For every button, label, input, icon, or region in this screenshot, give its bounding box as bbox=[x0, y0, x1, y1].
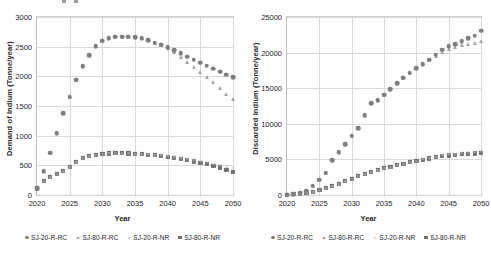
data-point bbox=[61, 111, 66, 116]
data-point bbox=[311, 183, 316, 188]
data-point bbox=[93, 152, 98, 157]
data-point bbox=[349, 176, 354, 181]
x-axis-tick-label: 2045 bbox=[440, 199, 457, 208]
data-point bbox=[408, 70, 413, 75]
gridline-vertical bbox=[168, 17, 169, 195]
data-point bbox=[466, 42, 470, 46]
legend-item[interactable]: SJ-80-R-NR bbox=[178, 234, 220, 241]
data-point bbox=[74, 159, 79, 164]
data-point bbox=[54, 131, 59, 136]
data-point bbox=[94, 44, 99, 49]
x-axis-tick-label: 2035 bbox=[376, 199, 393, 208]
legend-item[interactable]: SJ-80-R-RC bbox=[322, 234, 364, 241]
gridline-vertical bbox=[481, 17, 482, 195]
x-axis-tick-label: 2040 bbox=[408, 199, 425, 208]
legend-label: SJ-20-R-NR bbox=[379, 234, 415, 241]
legend-label: SJ-20-R-RC bbox=[277, 234, 313, 241]
legend-label: SJ-80-R-RC bbox=[328, 234, 364, 241]
y-axis-tick-label: 500 bbox=[19, 161, 32, 170]
legend-item[interactable]: SJ-80-R-RC bbox=[76, 234, 118, 241]
y-axis-tick-label: 5000 bbox=[265, 155, 282, 164]
data-point bbox=[146, 152, 151, 157]
data-point bbox=[80, 156, 85, 161]
data-point bbox=[217, 163, 222, 168]
legend-label: SJ-80-R-NR bbox=[184, 234, 220, 241]
data-point bbox=[205, 75, 209, 79]
data-point bbox=[133, 151, 138, 156]
data-point bbox=[191, 158, 196, 163]
data-point bbox=[317, 188, 322, 193]
data-point bbox=[285, 192, 290, 197]
data-point bbox=[211, 161, 216, 166]
data-point bbox=[152, 40, 157, 45]
chart-panel-discarded: Discarded Indium (Tonne/year) 0500010000… bbox=[246, 0, 491, 253]
legend-marker-tri-icon bbox=[322, 236, 326, 239]
data-point bbox=[48, 174, 53, 179]
data-point bbox=[421, 62, 426, 67]
data-point bbox=[433, 52, 438, 57]
chart-panel-demand: Demand of Indium (Tonne/year) 0500100015… bbox=[0, 0, 245, 253]
data-point bbox=[133, 35, 138, 40]
data-point bbox=[192, 65, 196, 69]
legend-item[interactable]: SJ-20-R-RC bbox=[271, 234, 313, 241]
legend-item[interactable]: SJ-20-R-RC bbox=[25, 234, 67, 241]
data-point bbox=[100, 151, 105, 156]
data-point bbox=[231, 97, 235, 101]
data-point bbox=[362, 171, 367, 176]
gridline-vertical bbox=[200, 17, 201, 195]
data-point bbox=[473, 41, 477, 45]
data-point bbox=[420, 157, 425, 162]
data-point bbox=[382, 92, 387, 97]
data-point bbox=[152, 152, 157, 157]
data-point bbox=[375, 98, 380, 103]
legend-marker-sq-icon bbox=[424, 236, 427, 239]
data-point bbox=[394, 163, 399, 168]
gridline-vertical bbox=[319, 17, 320, 195]
data-point bbox=[231, 166, 236, 171]
y-axis-tick-label: 2500 bbox=[15, 42, 32, 51]
data-point bbox=[479, 149, 484, 154]
data-point bbox=[466, 36, 471, 41]
legend-marker-circ-icon bbox=[25, 236, 29, 240]
data-point bbox=[362, 113, 367, 118]
gridline-vertical bbox=[102, 17, 103, 195]
data-point bbox=[67, 94, 72, 99]
x-axis-tick-label: 2020 bbox=[279, 199, 296, 208]
gridline-vertical bbox=[135, 17, 136, 195]
legend-label: SJ-80-R-RC bbox=[82, 234, 118, 241]
legend-label: SJ-80-R-NR bbox=[430, 234, 466, 241]
data-point bbox=[349, 134, 354, 139]
data-point bbox=[446, 44, 451, 49]
data-point bbox=[459, 39, 464, 44]
dual-scatter-figure: Demand of Indium (Tonne/year) 0500100015… bbox=[0, 0, 491, 253]
data-point bbox=[204, 160, 209, 165]
data-point bbox=[453, 42, 458, 47]
gridline-vertical bbox=[352, 17, 353, 195]
data-point bbox=[401, 161, 406, 166]
data-point bbox=[298, 190, 303, 195]
data-point bbox=[218, 69, 223, 74]
data-point bbox=[106, 151, 111, 156]
legend-marker-tri-icon bbox=[76, 236, 80, 239]
data-point bbox=[440, 47, 445, 52]
data-point bbox=[479, 39, 483, 43]
data-point bbox=[126, 151, 131, 156]
plot-area-left bbox=[36, 16, 234, 196]
data-point bbox=[401, 75, 406, 80]
data-point bbox=[453, 151, 458, 156]
legend-item[interactable]: ×SJ-20-R-NR bbox=[127, 234, 169, 241]
data-point bbox=[224, 164, 229, 169]
data-point bbox=[120, 34, 125, 39]
data-point bbox=[205, 63, 210, 68]
legend-item[interactable]: SJ-80-R-NR bbox=[424, 234, 466, 241]
data-point bbox=[48, 151, 53, 156]
legend-marker-circ-icon bbox=[271, 236, 275, 240]
data-point bbox=[310, 189, 315, 194]
data-point bbox=[172, 48, 177, 53]
data-point bbox=[159, 153, 164, 158]
y-axis-tick-label: 10000 bbox=[261, 119, 282, 128]
data-point bbox=[178, 156, 183, 161]
data-point bbox=[414, 66, 419, 71]
legend-item[interactable]: ×SJ-20-R-NR bbox=[373, 234, 415, 241]
x-axis-tick-label: 2020 bbox=[29, 199, 46, 208]
